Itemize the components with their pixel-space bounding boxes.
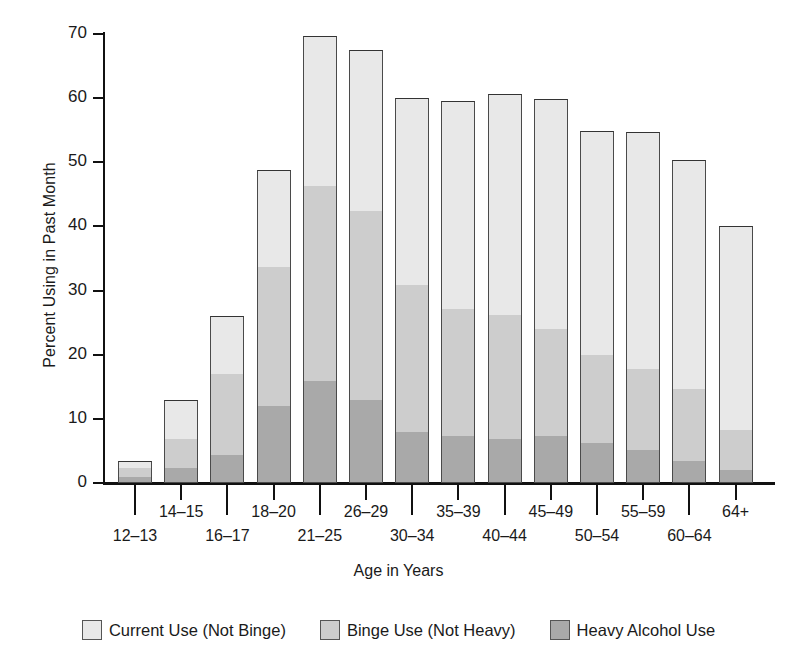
y-tick-mark — [93, 225, 103, 227]
bar-segment-current-use-not-binge — [257, 170, 291, 267]
x-axis-label-16-17: 16–17 — [182, 527, 272, 545]
x-axis-label-14-15: 14–15 — [136, 503, 226, 521]
y-tick-mark — [93, 33, 103, 35]
stacked-bar-chart: Percent Using in Past Month 010203040506… — [0, 0, 797, 655]
x-axis-label-50-54: 50–54 — [552, 527, 642, 545]
bar-50-54[interactable] — [580, 131, 614, 483]
x-axis-label-64+: 64+ — [691, 503, 781, 521]
bar-segment-heavy-alcohol-use — [164, 468, 198, 483]
bar-segment-binge-use-not-heavy — [257, 267, 291, 406]
legend-label: Heavy Alcohol Use — [577, 621, 716, 640]
bar-segment-current-use-not-binge — [672, 160, 706, 390]
bar-45-49[interactable] — [534, 99, 568, 483]
bar-14-15[interactable] — [164, 400, 198, 483]
x-axis-label-26-29: 26–29 — [321, 503, 411, 521]
x-axis-label-35-39: 35–39 — [413, 503, 503, 521]
x-axis-title: Age in Years — [0, 562, 797, 580]
legend-item-1[interactable]: Binge Use (Not Heavy) — [320, 620, 516, 640]
bar-segment-current-use-not-binge — [210, 316, 244, 374]
bar-55-59[interactable] — [626, 132, 660, 484]
bar-segment-binge-use-not-heavy — [210, 374, 244, 455]
bar-segment-current-use-not-binge — [488, 94, 522, 315]
y-tick-label: 70 — [47, 23, 87, 43]
x-axis-label-21-25: 21–25 — [275, 527, 365, 545]
x-axis-label-60-64: 60–64 — [644, 527, 734, 545]
x-tick-14-15 — [180, 485, 182, 500]
bar-segment-current-use-not-binge — [349, 50, 383, 211]
x-tick-45-49 — [550, 485, 552, 500]
y-tick-label: 20 — [47, 344, 87, 364]
legend-item-2[interactable]: Heavy Alcohol Use — [550, 620, 716, 640]
bar-30-34[interactable] — [395, 98, 429, 483]
y-tick-label: 0 — [47, 472, 87, 492]
legend-label: Binge Use (Not Heavy) — [347, 621, 516, 640]
x-axis-label-12-13: 12–13 — [90, 527, 180, 545]
bar-segment-current-use-not-binge — [626, 132, 660, 370]
legend-label: Current Use (Not Binge) — [109, 621, 286, 640]
bar-segment-binge-use-not-heavy — [441, 309, 475, 437]
bar-18-20[interactable] — [257, 170, 291, 483]
bar-segment-heavy-alcohol-use — [257, 406, 291, 483]
bar-40-44[interactable] — [488, 94, 522, 483]
bar-segment-binge-use-not-heavy — [349, 211, 383, 400]
bar-segment-heavy-alcohol-use — [395, 432, 429, 483]
bar-segment-current-use-not-binge — [164, 400, 198, 440]
y-tick-label: 40 — [47, 215, 87, 235]
legend-swatch-icon — [550, 620, 570, 640]
y-tick-mark — [93, 161, 103, 163]
y-tick-label: 60 — [47, 87, 87, 107]
legend-swatch-icon — [320, 620, 340, 640]
bar-35-39[interactable] — [441, 101, 475, 483]
y-tick-mark — [93, 97, 103, 99]
bar-segment-binge-use-not-heavy — [719, 430, 753, 470]
bar-segment-heavy-alcohol-use — [303, 381, 337, 483]
bar-segment-current-use-not-binge — [580, 131, 614, 355]
bar-segment-current-use-not-binge — [395, 98, 429, 285]
bar-26-29[interactable] — [349, 50, 383, 483]
x-tick-64+ — [735, 485, 737, 500]
bar-segment-current-use-not-binge — [719, 226, 753, 430]
y-tick-mark — [93, 482, 103, 484]
y-tick-label: 50 — [47, 151, 87, 171]
x-tick-55-59 — [642, 485, 644, 500]
bar-segment-heavy-alcohol-use — [118, 477, 152, 483]
bar-segment-current-use-not-binge — [534, 99, 568, 329]
plot-area — [103, 34, 773, 483]
bar-segment-heavy-alcohol-use — [626, 450, 660, 483]
bar-segment-heavy-alcohol-use — [210, 455, 244, 483]
bar-64+[interactable] — [719, 226, 753, 483]
bar-segment-current-use-not-binge — [303, 36, 337, 186]
x-tick-35-39 — [457, 485, 459, 500]
legend-swatch-icon — [82, 620, 102, 640]
bar-60-64[interactable] — [672, 160, 706, 483]
x-axis-label-30-34: 30–34 — [367, 527, 457, 545]
bar-segment-binge-use-not-heavy — [534, 329, 568, 436]
bar-segment-heavy-alcohol-use — [719, 470, 753, 483]
y-tick-label: 30 — [47, 280, 87, 300]
bar-21-25[interactable] — [303, 36, 337, 483]
bar-segment-current-use-not-binge — [441, 101, 475, 309]
x-axis-label-45-49: 45–49 — [506, 503, 596, 521]
legend-item-0[interactable]: Current Use (Not Binge) — [82, 620, 286, 640]
bar-segment-heavy-alcohol-use — [488, 439, 522, 483]
bar-segment-binge-use-not-heavy — [626, 369, 660, 449]
chart-legend: Current Use (Not Binge)Binge Use (Not He… — [0, 614, 797, 646]
x-axis-label-40-44: 40–44 — [460, 527, 550, 545]
y-axis-title: Percent Using in Past Month — [41, 95, 59, 435]
bar-segment-binge-use-not-heavy — [164, 439, 198, 467]
bar-segment-binge-use-not-heavy — [118, 468, 152, 476]
bar-segment-heavy-alcohol-use — [534, 436, 568, 483]
x-tick-18-20 — [273, 485, 275, 500]
bar-12-13[interactable] — [118, 461, 152, 483]
bar-segment-binge-use-not-heavy — [488, 315, 522, 439]
bar-segment-heavy-alcohol-use — [441, 436, 475, 483]
y-tick-mark — [93, 354, 103, 356]
bar-segment-binge-use-not-heavy — [395, 285, 429, 431]
y-tick-mark — [93, 418, 103, 420]
bar-segment-heavy-alcohol-use — [672, 461, 706, 483]
y-tick-mark — [93, 290, 103, 292]
bar-16-17[interactable] — [210, 316, 244, 483]
bar-segment-binge-use-not-heavy — [303, 186, 337, 381]
bar-segment-current-use-not-binge — [118, 461, 152, 468]
bar-segment-binge-use-not-heavy — [580, 355, 614, 444]
